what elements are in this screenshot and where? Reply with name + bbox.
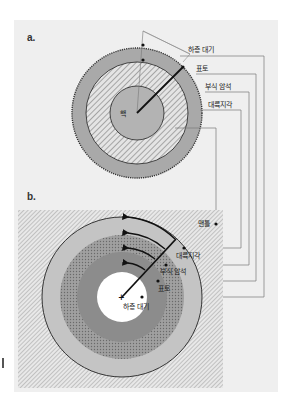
- label-a-topsoil: 표토: [196, 65, 209, 73]
- label-b-atmosphere: 하층 대기: [123, 302, 149, 311]
- label-a-atmosphere: 하층 대기: [188, 45, 214, 54]
- panel-b-label: b.: [27, 191, 36, 202]
- panel-a-label: a.: [27, 32, 36, 43]
- panel-b: b. + 맨틀 대륙지각 부식 암석 표토 하층 대기: [18, 191, 223, 388]
- label-b-continental-crust: 대륙지각: [176, 251, 201, 260]
- label-a-continental-crust: 대륙지각: [208, 100, 233, 109]
- label-a-weathered-rock: 부식 암석: [205, 82, 231, 91]
- earth-layers-diagram: a. 핵 하층 대기 표토 부식 암석 대륙지각: [0, 0, 291, 399]
- label-b-topsoil: 표토: [158, 285, 171, 293]
- svg-text:+: +: [118, 293, 125, 302]
- core-label: 핵: [120, 109, 126, 118]
- panel-a: a. 핵 하층 대기 표토 부식 암석 대륙지각: [27, 31, 233, 178]
- label-b-mantle: 맨틀: [198, 219, 211, 228]
- label-b-weathered-rock: 부식 암석: [160, 267, 186, 276]
